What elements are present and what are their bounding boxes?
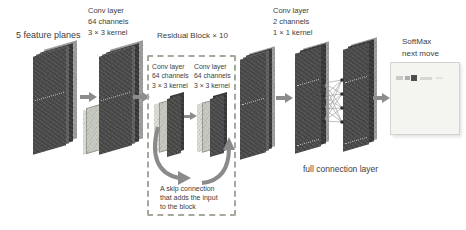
plane-sheet [343,42,369,151]
plane-sheet [99,47,132,154]
conv-output-label-line2: 2 channels [273,17,312,28]
plane-sheet [295,46,321,153]
arrow-head-icon [190,112,197,120]
arrow-shaft [373,96,382,100]
arrow-head-icon [285,93,293,103]
flow-arrow-3 [276,93,293,103]
plane-dotted-line [297,79,320,87]
softmax-label: SoftMax next move [402,36,439,59]
conv-output-label-line1: Conv layer [273,6,312,17]
probability-peak-mark [411,75,417,81]
conv1-label-line1: Conv layer [88,6,128,17]
plane-dotted-line [101,92,130,101]
arrow-head-icon [382,93,390,103]
plane-sheet [210,95,224,157]
softmax-board [390,62,460,135]
conv1-label-line3: 3 × 3 kernel [88,28,128,39]
probability-mark [396,76,403,80]
plane-dotted-line [345,137,368,145]
residual-conv-left-line1: Conv layer [152,62,189,71]
residual-block-title: Residual Block × 10 [157,31,228,40]
conv-output-label-line3: 1 × 1 kernel [273,28,312,39]
residual-conv-left-label: Conv layer 64 channels 3 × 3 kernel [152,62,189,90]
skip-note-line3: to the block [160,202,218,211]
residual-conv-right-label: Conv layer 64 channels 3 × 3 kernel [194,62,231,90]
plane-sheet [33,47,66,154]
skip-note-line2: that adds the input [160,193,218,202]
probability-mark [405,76,410,80]
plane-dotted-line [345,75,368,83]
conv1-label: Conv layer 64 channels 3 × 3 kernel [88,6,128,38]
plane-dotted-line [242,98,265,106]
arrow-shaft [80,95,89,99]
residual-conv-left-line3: 3 × 3 kernel [152,81,189,90]
flow-arrow-4 [373,93,390,103]
full-connection-label: full connection layer [303,164,378,174]
probability-mark [420,77,432,80]
probability-mark [436,77,443,79]
arrow-head-icon [89,92,97,102]
input-planes-label: 5 feature planes [16,30,81,40]
residual-inner-arrow [184,112,197,120]
plane-sheet [240,52,266,159]
residual-conv-right-line2: 64 channels [194,71,231,80]
arrow-shaft [276,96,285,100]
conv1-label-line2: 64 channels [88,17,128,28]
skip-connection-note: A skip connection that adds the input to… [160,184,218,212]
residual-conv-left-line2: 64 channels [152,71,189,80]
softmax-label-line2: next move [402,48,439,60]
plane-dotted-line [35,92,64,101]
plane-sheet [167,95,181,157]
flow-arrow-1 [80,92,97,102]
residual-conv-right-line3: 3 × 3 kernel [194,81,231,90]
softmax-label-line1: SoftMax [402,36,439,48]
plane-dotted-line [297,139,320,147]
conv-output-label: Conv layer 2 channels 1 × 1 kernel [273,6,312,38]
arrow-shaft [133,95,142,99]
skip-note-line1: A skip connection [160,184,218,193]
residual-conv-right-line1: Conv layer [194,62,231,71]
cnn-architecture-diagram: 5 feature planes Conv layer 64 channels … [0,0,466,230]
